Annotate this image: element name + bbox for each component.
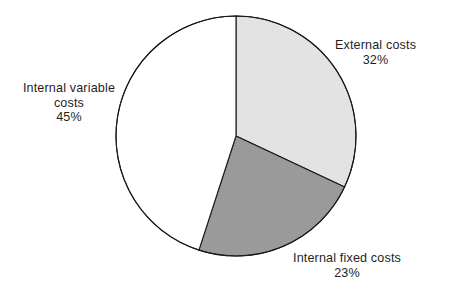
pie-label-internal-fixed-costs: Internal fixed costs 23% bbox=[272, 251, 422, 280]
pie-label-external-costs-value: 32% bbox=[302, 53, 449, 68]
pie-label-internal-fixed-costs-value: 23% bbox=[272, 266, 422, 281]
pie-chart: External costs 32% Internal variable cos… bbox=[0, 0, 449, 293]
pie-label-internal-variable-costs: Internal variable costs 45% bbox=[0, 81, 138, 125]
pie-label-internal-variable-costs-text-line2: costs bbox=[0, 96, 138, 111]
pie-label-internal-variable-costs-value: 45% bbox=[0, 110, 138, 125]
pie-label-external-costs: External costs 32% bbox=[302, 38, 449, 67]
pie-label-internal-variable-costs-text-line1: Internal variable bbox=[0, 81, 138, 96]
pie-label-external-costs-text: External costs bbox=[302, 38, 449, 53]
pie-label-internal-fixed-costs-text: Internal fixed costs bbox=[272, 251, 422, 266]
